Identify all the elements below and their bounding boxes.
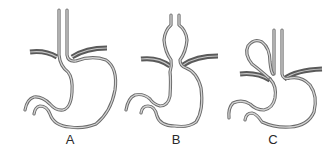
panel-label-a: A <box>60 132 80 147</box>
stomach-hernia-diagram <box>0 0 336 152</box>
stomach-outline <box>126 15 202 127</box>
panel-c <box>229 30 322 127</box>
panel-label-b: B <box>166 132 186 147</box>
panel-label-c: C <box>263 132 283 147</box>
panel-b <box>126 15 218 127</box>
stomach-outline <box>229 30 316 127</box>
stomach-outline <box>25 10 116 128</box>
panel-a <box>25 10 116 128</box>
